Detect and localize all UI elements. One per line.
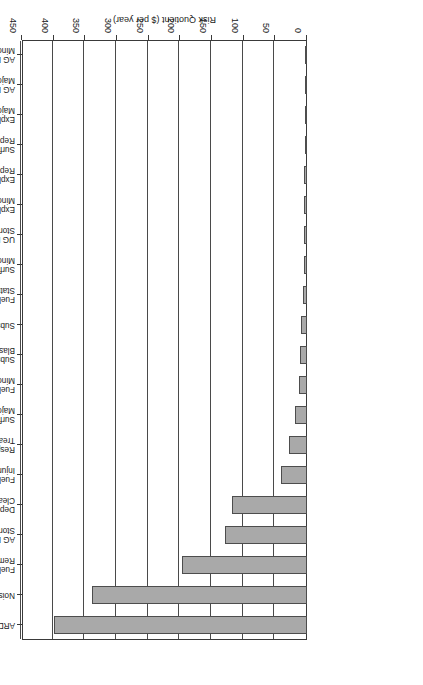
category-label-line: UG Explosives xyxy=(0,235,15,244)
category-label: Surface BlastingMinor Injury xyxy=(0,256,15,274)
category-label-line: AG Explosives Storage xyxy=(0,55,15,64)
category-label: Subsidence Repair xyxy=(0,321,15,330)
category-axis-tick xyxy=(17,534,22,535)
bar xyxy=(303,286,307,305)
category-axis-tick xyxy=(17,594,22,595)
category-label: Noise Remediation xyxy=(0,591,15,600)
value-axis-tick-label: 0 xyxy=(293,28,303,33)
category-label-line: Remediation xyxy=(0,556,15,565)
category-axis-tick xyxy=(17,384,22,385)
bar xyxy=(232,496,307,515)
category-label: Surface BlastingRepair xyxy=(0,136,15,154)
category-label: Explosives TransportMinor Injury xyxy=(0,196,15,214)
value-axis-tick xyxy=(243,35,244,40)
bar xyxy=(304,196,307,215)
category-label-line: Noise Remediation xyxy=(0,591,15,600)
category-label-line: Surface Blasting xyxy=(0,415,15,424)
bar xyxy=(300,346,307,365)
bar xyxy=(304,166,307,185)
value-axis-tick xyxy=(84,35,85,40)
category-label-line: Minor Injury xyxy=(0,256,15,265)
category-axis-tick xyxy=(17,144,22,145)
category-label-line: Storage Repair xyxy=(0,226,15,235)
category-label: Fuel TransportStatutory Fine xyxy=(0,286,15,304)
category-label-line: Major Injury, Death xyxy=(0,106,15,115)
category-label: Fuel Transport MajorInjury, Death xyxy=(0,466,15,484)
category-label: UG ExplosivesStorage Repair xyxy=(0,226,15,244)
value-axis-tick xyxy=(116,35,117,40)
category-axis-tick xyxy=(17,54,22,55)
category-label-line: AG Explosives Storage xyxy=(0,85,15,94)
category-axis-tick xyxy=(17,114,22,115)
category-axis-tick xyxy=(17,204,22,205)
category-axis-tick xyxy=(17,414,22,415)
value-axis-title: Risk Quotient ($ per year) xyxy=(22,15,307,25)
category-axis-tick xyxy=(17,354,22,355)
value-axis-tick xyxy=(53,35,54,40)
category-label-line: Repair xyxy=(0,166,15,175)
category-label-line: Deposited Dust xyxy=(0,505,15,514)
value-axis-tick xyxy=(179,35,180,40)
bar xyxy=(182,556,307,575)
category-label-line: Explosives Transport xyxy=(0,115,15,124)
category-label: SubsurfaceBlasting Repair xyxy=(0,346,15,364)
category-axis-tick xyxy=(17,504,22,505)
category-label-line: Explosives Transport xyxy=(0,205,15,214)
category-label-line: Respirable Dust xyxy=(0,445,15,454)
category-axis-tick xyxy=(17,84,22,85)
category-label-line: Statutory Fine xyxy=(0,286,15,295)
category-label-line: Major Injury, Death xyxy=(0,76,15,85)
bar xyxy=(281,466,307,485)
category-label: AG Explosives StorageMinor Injury xyxy=(0,46,15,64)
bar xyxy=(299,376,307,395)
category-label-line: Storage Repair xyxy=(0,526,15,535)
category-label: Respirable DustTreatment 5 People xyxy=(0,436,15,454)
category-label-line: Blasting Repair xyxy=(0,346,15,355)
category-label-line: Fuel Transport Major xyxy=(0,475,15,484)
category-label-line: Fuel Transport xyxy=(0,565,15,574)
value-axis-tick xyxy=(274,35,275,40)
category-axis-tick xyxy=(17,294,22,295)
category-label-line: Fuel Transport xyxy=(0,385,15,394)
value-axis-tick xyxy=(211,35,212,40)
category-axis-tick xyxy=(17,624,22,625)
category-axis-tick xyxy=(17,174,22,175)
category-axis-tick xyxy=(17,234,22,235)
category-label: Deposited DustCleanup xyxy=(0,496,15,514)
category-label-line: ARD Remediation xyxy=(0,621,15,630)
bar xyxy=(289,436,307,455)
bar xyxy=(54,616,307,635)
bar xyxy=(225,526,307,545)
category-label-line: Minor Injury xyxy=(0,196,15,205)
category-label-line: Minor Injury xyxy=(0,376,15,385)
category-label-line: Minor Injury xyxy=(0,46,15,55)
value-axis-tick xyxy=(306,35,307,40)
bar xyxy=(305,106,307,125)
category-axis-tick xyxy=(17,324,22,325)
category-label: Explosives TransportMajor Injury, Death xyxy=(0,106,15,124)
category-label: Fuel TransportRemediation xyxy=(0,556,15,574)
category-label-line: Surface Blasting xyxy=(0,145,15,154)
value-axis-tick xyxy=(148,35,149,40)
category-label-line: Fuel Transport xyxy=(0,295,15,304)
category-label: AG ExplosivesStorage Repair xyxy=(0,526,15,544)
bar xyxy=(92,586,307,605)
category-axis-labels: ARD RemediationNoise RemediationFuel Tra… xyxy=(0,40,15,640)
category-label-line: Explosives Transport xyxy=(0,175,15,184)
bar xyxy=(305,46,307,65)
category-label-line: Cleanup xyxy=(0,496,15,505)
category-label: Fuel TransportMinor Injury xyxy=(0,376,15,394)
category-label-line: Subsidence Repair xyxy=(0,321,15,330)
bars-layer xyxy=(22,40,307,640)
bar xyxy=(305,76,307,95)
category-label-line: Surface Blasting xyxy=(0,265,15,274)
category-label: Surface BlastingMajor Injury, Death xyxy=(0,406,15,424)
bar xyxy=(304,226,307,245)
bar xyxy=(305,136,307,155)
category-label: ARD Remediation xyxy=(0,621,15,630)
category-label-line: Major Injury, Death xyxy=(0,406,15,415)
category-axis-tick xyxy=(17,564,22,565)
category-label-line: Subsurface xyxy=(0,355,15,364)
category-axis-tick xyxy=(17,444,22,445)
bar xyxy=(301,316,307,335)
